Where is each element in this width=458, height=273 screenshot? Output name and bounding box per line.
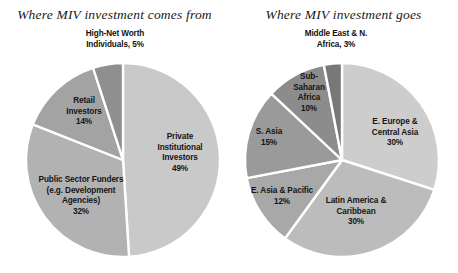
pie-slice-label: High-Net Worth Individuals, 5% [61,29,169,50]
pie-slice-label: E. Europe & Central Asia 30% [359,117,431,149]
pie-slice-label: Middle East & N. Africa, 3% [277,29,395,50]
pie-slice-label: Private Institutional Investors 49% [150,132,210,174]
pie-slice-label: Retail Investors 14% [55,96,113,128]
pie-chart-figure: Where MIV investment comes from Private … [0,0,458,273]
chart-panel-miv-sources: Where MIV investment comes from Private … [0,0,229,273]
pie-slice-label: E. Asia & Pacific 12% [241,186,323,207]
pie-slice-label: Latin America & Caribbean 30% [314,196,398,228]
pie-slice-label: Sub- Saharan Africa 10% [286,72,332,114]
chart-panel-miv-destinations: Where MIV investment goes E. Europe & Ce… [229,0,458,273]
pie-slice-label: S. Asia 15% [245,127,293,148]
pie-slice-label: Public Sector Funders (e.g. Development … [32,175,130,217]
